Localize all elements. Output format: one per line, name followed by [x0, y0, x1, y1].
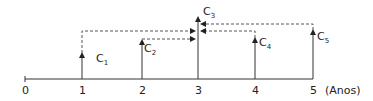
- tick-label-0: 0: [22, 84, 29, 97]
- cash-flow-diagram: 0 1 2 3 4 5 (Anos) C1 C2 C3 C4 C5: [0, 0, 373, 101]
- dashed-path-c1-to-3: [82, 31, 193, 53]
- flow-label-c3: C3: [203, 5, 215, 20]
- tick-label-5: 5: [310, 84, 317, 97]
- dashed-path-c5-to-3: [203, 24, 313, 30]
- flow-label-c4: C4: [259, 36, 272, 51]
- diagram-canvas: 0 1 2 3 4 5 (Anos) C1 C2 C3 C4 C5: [0, 0, 373, 101]
- tick-label-3: 3: [195, 84, 202, 97]
- tick-label-4: 4: [252, 84, 259, 97]
- tick-label-1: 1: [79, 84, 86, 97]
- flow-label-c1: C1: [96, 52, 108, 67]
- flow-label-c2: C2: [144, 42, 156, 57]
- tick-label-2: 2: [139, 84, 146, 97]
- dashed-path-c4-to-3: [203, 31, 255, 38]
- flow-label-c5: C5: [317, 30, 329, 45]
- axis-unit-label: (Anos): [325, 84, 361, 97]
